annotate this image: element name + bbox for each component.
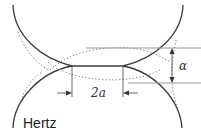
upper-right-arc — [123, 5, 183, 66]
upper-left-arc — [13, 5, 72, 66]
undeformed-upper-left — [18, 32, 48, 70]
contact-width-label: 2a — [90, 86, 106, 100]
undeformed-lower-lens — [48, 62, 160, 80]
alpha-label: α — [179, 59, 187, 73]
alpha-arrow-down-icon — [170, 77, 175, 83]
hertz-contact-diagram: α 2a Hertz — [0, 0, 201, 136]
right-arrow-icon — [123, 91, 129, 96]
left-arrow-icon — [66, 91, 72, 96]
lower-right-arc — [123, 66, 182, 128]
diagram-title: Hertz — [23, 115, 56, 131]
